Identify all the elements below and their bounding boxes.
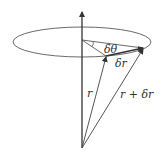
dr-label: δr (115, 57, 128, 70)
angle-arc (92, 42, 93, 47)
r-plus-dr-label: r + δr (120, 88, 154, 101)
r-vector (82, 57, 106, 148)
dtheta-label: δθ (104, 43, 118, 56)
rotation-diagram: δθ δr r r + δr (0, 0, 162, 162)
diagram-canvas: δθ δr r r + δr (0, 0, 162, 162)
r-label: r (87, 87, 93, 100)
